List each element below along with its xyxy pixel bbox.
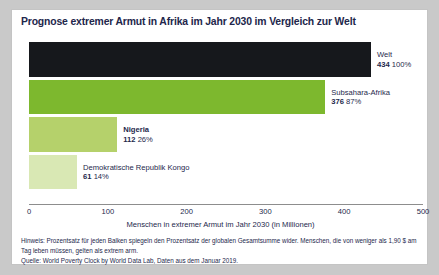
bar-value: 112 (123, 134, 135, 143)
bar-label-name: Welt (377, 50, 411, 59)
bar-label: Welt434 100% (377, 50, 411, 69)
bar-label-name: Subsahara-Afrika (331, 88, 390, 97)
bar[interactable] (29, 42, 371, 77)
bar-label-values: 376 87% (331, 97, 390, 106)
bar[interactable] (29, 117, 117, 152)
bar-percent: 26% (136, 134, 153, 143)
chart-title: Prognose extremer Armut in Afrika im Jah… (21, 16, 356, 27)
bar-percent: 100% (390, 59, 412, 68)
bar-percent: 14% (92, 172, 109, 181)
bar[interactable] (29, 155, 77, 190)
bar-value: 434 (377, 59, 390, 68)
bar-percent: 87% (344, 97, 361, 106)
bar-label-name: Demokratische Republik Kongo (83, 163, 189, 172)
bar-label: Nigeria112 26% (123, 125, 153, 144)
x-tick-label: 0 (27, 207, 31, 216)
plot-area: Welt434 100%Subsahara-Afrika376 87%Niger… (18, 42, 423, 192)
chart-card: Prognose extremer Armut in Afrika im Jah… (11, 9, 428, 265)
bar[interactable] (29, 80, 325, 115)
bar-label-values: 61 14% (83, 172, 189, 181)
bar-label-values: 112 26% (123, 134, 153, 143)
x-axis-label: Menschen in extremer Armut im Jahr 2030 … (12, 220, 429, 229)
footnote: Hinweis: Prozentsatz für jeden Balken sp… (21, 236, 421, 265)
bar-label: Demokratische Republik Kongo61 14% (83, 163, 189, 182)
bar-label-name: Nigeria (123, 125, 153, 134)
x-axis-line (29, 204, 423, 205)
x-tick-label: 200 (180, 207, 193, 216)
bar-label-values: 434 100% (377, 59, 411, 68)
x-tick-label: 400 (338, 207, 351, 216)
bar-value: 376 (331, 97, 344, 106)
footnote-note: Hinweis: Prozentsatz für jeden Balken sp… (21, 236, 421, 256)
x-tick-label: 500 (417, 207, 430, 216)
x-tick-label: 300 (259, 207, 272, 216)
bar-row: Demokratische Republik Kongo61 14% (18, 155, 423, 190)
bar-row: Subsahara-Afrika376 87% (18, 80, 423, 115)
bar-label: Subsahara-Afrika376 87% (331, 88, 390, 107)
footnote-source: Quelle: World Poverty Clock by World Dat… (21, 256, 421, 266)
bar-row: Welt434 100% (18, 42, 423, 77)
bar-row: Nigeria112 26% (18, 117, 423, 152)
x-tick-label: 100 (101, 207, 114, 216)
